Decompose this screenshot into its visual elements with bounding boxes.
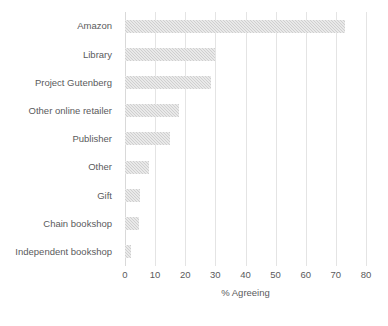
plot-area (125, 12, 366, 266)
category-axis-labels: Amazon Library Project Gutenberg Other o… (0, 12, 118, 266)
bar (125, 161, 149, 174)
bar (125, 189, 140, 202)
bar (125, 217, 139, 230)
category-label: Other online retailer (0, 97, 118, 125)
x-axis-tick-label: 70 (331, 270, 342, 280)
x-axis-tick-label: 60 (300, 270, 311, 280)
bar-row (125, 97, 366, 125)
bar-row (125, 181, 366, 209)
bar-row (125, 40, 366, 68)
bar-row (125, 153, 366, 181)
x-axis-title: % Agreeing (125, 288, 366, 298)
bar (125, 245, 131, 258)
bar (125, 48, 215, 61)
gridline (366, 12, 367, 266)
category-label: Gift (0, 181, 118, 209)
bar (125, 132, 170, 145)
x-axis-tick-labels: 01020304050607080 (125, 270, 366, 284)
bar-chart: Amazon Library Project Gutenberg Other o… (0, 0, 388, 326)
bar-row (125, 209, 366, 237)
category-label: Independent bookshop (0, 238, 118, 266)
bar (125, 76, 211, 89)
category-label: Amazon (0, 12, 118, 40)
bar (125, 104, 179, 117)
bar-row (125, 68, 366, 96)
bars-layer (125, 12, 366, 266)
x-axis-tick-label: 0 (122, 270, 127, 280)
x-axis-tick-label: 80 (361, 270, 372, 280)
x-axis-tick-label: 50 (270, 270, 281, 280)
category-label: Project Gutenberg (0, 68, 118, 96)
x-axis-tick-label: 20 (180, 270, 191, 280)
category-label: Publisher (0, 125, 118, 153)
category-label: Chain bookshop (0, 209, 118, 237)
x-axis-tick-label: 10 (150, 270, 161, 280)
category-label: Library (0, 40, 118, 68)
bar (125, 20, 345, 33)
category-label: Other (0, 153, 118, 181)
bar-row (125, 125, 366, 153)
bar-row (125, 238, 366, 266)
bar-row (125, 12, 366, 40)
x-axis-tick-label: 30 (210, 270, 221, 280)
x-axis-tick-label: 40 (240, 270, 251, 280)
